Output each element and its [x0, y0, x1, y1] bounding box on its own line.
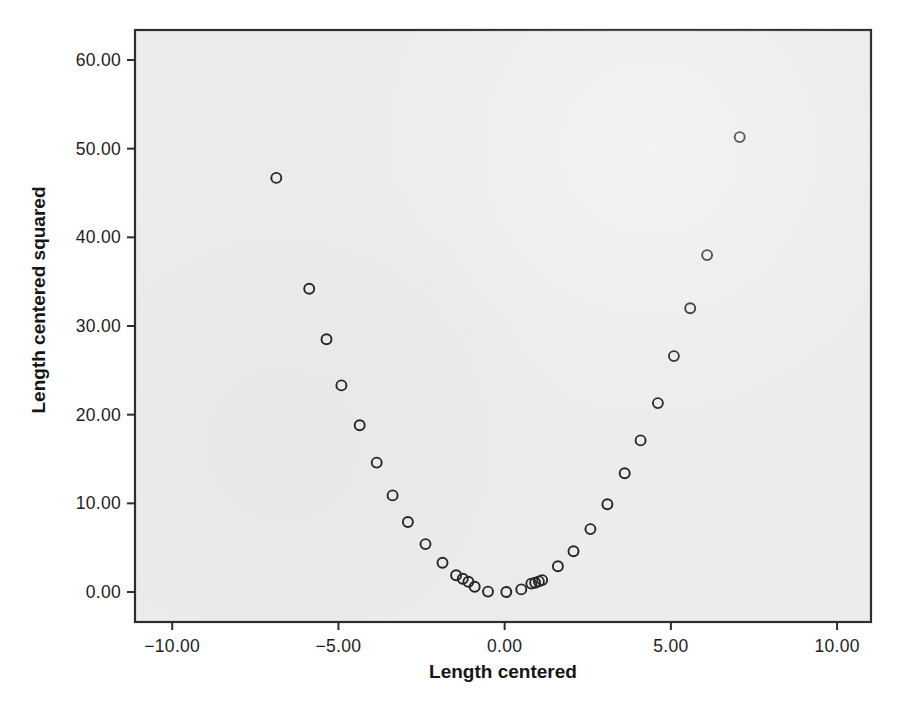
scatter-plot-figure: 0.0010.0020.0030.0040.0050.0060.00 −10.0… — [0, 0, 899, 713]
y-axis-title: Length centered squared — [28, 187, 50, 414]
y-tick-label: 60.00 — [76, 50, 121, 70]
x-tick-label: −5.00 — [316, 636, 362, 656]
y-tick-label: 10.00 — [76, 493, 121, 513]
y-tick-label: 0.00 — [86, 582, 121, 602]
y-tick-label: 30.00 — [76, 316, 121, 336]
scatter-plot: 0.0010.0020.0030.0040.0050.0060.00 −10.0… — [0, 0, 899, 713]
y-tick-label: 20.00 — [76, 405, 121, 425]
plot-area — [135, 30, 871, 622]
x-tick-label: 0.00 — [487, 636, 522, 656]
y-tick-label: 40.00 — [76, 227, 121, 247]
x-tick-label: 10.00 — [814, 636, 859, 656]
y-tick-label: 50.00 — [76, 139, 121, 159]
x-axis-title: Length centered — [429, 661, 577, 683]
x-tick-label: −10.00 — [144, 636, 200, 656]
x-tick-label: 5.00 — [653, 636, 688, 656]
x-axis-ticks: −10.00−5.000.005.0010.00 — [144, 622, 859, 656]
y-axis-ticks: 0.0010.0020.0030.0040.0050.0060.00 — [76, 50, 135, 602]
